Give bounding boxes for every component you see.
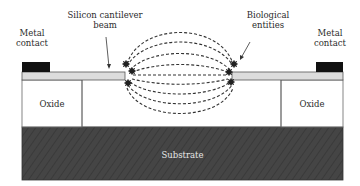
metal-contact-left <box>22 62 50 72</box>
label-metal-contact-left: Metal contact <box>12 28 52 48</box>
cantilever-beam-right <box>232 72 343 80</box>
label-cantilever-beam: Silicon cantilever beam <box>60 10 150 30</box>
label-oxide-right: Oxide <box>281 99 343 109</box>
label-substrate: Substrate <box>140 150 225 160</box>
label-oxide-left: Oxide <box>22 99 82 109</box>
cantilever-beam-left <box>22 72 125 80</box>
biological-pointer <box>241 42 250 58</box>
metal-contact-right <box>316 62 343 72</box>
label-metal-contact-right: Metal contact <box>308 28 352 48</box>
label-biological-entities: Biological entities <box>238 10 298 30</box>
cantilever-pointer <box>106 37 109 67</box>
biological-entities <box>122 60 238 87</box>
field-lines <box>127 33 233 114</box>
